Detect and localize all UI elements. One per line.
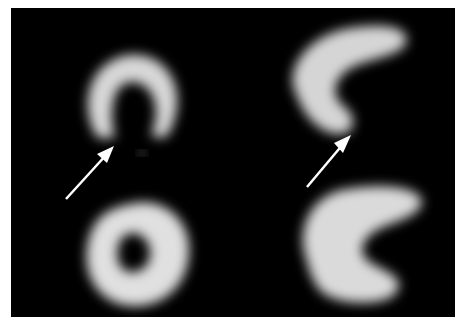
scan-image-panel [11, 8, 455, 317]
crescent-slice-bottom [303, 186, 422, 303]
arrow-indicator-right [307, 135, 351, 187]
ring-slice [86, 202, 189, 306]
spect-slices-graphic [11, 8, 455, 317]
arrow-indicator-left [66, 146, 114, 199]
crescent-slice-top [293, 26, 407, 134]
artifact-spot [138, 151, 146, 155]
horseshoe-slice [88, 55, 177, 138]
